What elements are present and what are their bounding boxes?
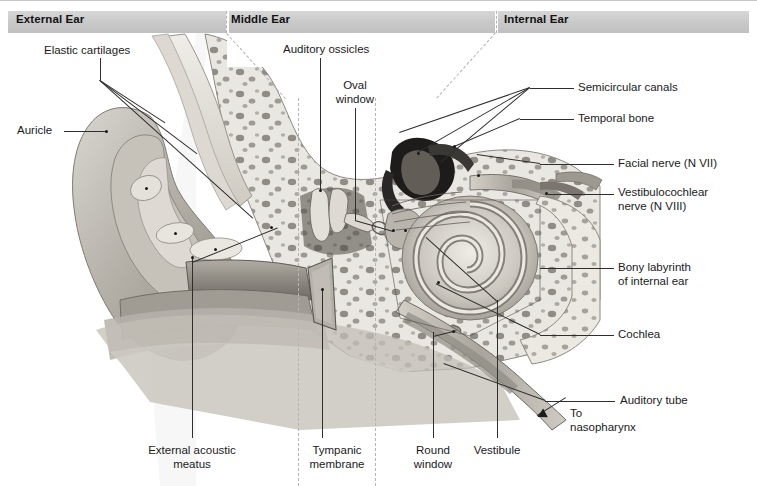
label-vestibule: Vestibule — [466, 444, 528, 458]
dot-vestibule — [404, 229, 407, 232]
label-temporal-bone: Temporal bone — [578, 112, 654, 126]
leader-oval-window-stem — [355, 108, 356, 220]
leader-external-acoustic-meatus — [192, 258, 193, 438]
dot-semicircular-canal-2 — [398, 163, 401, 166]
dot-cochlea — [437, 281, 440, 284]
label-vestibulocochlear-nerve: Vestibulocochlear nerve (N VIII) — [618, 186, 708, 213]
dot-temporal-bone — [453, 145, 456, 148]
label-to-nasopharynx: To nasopharynx — [570, 407, 636, 434]
dot-round-window — [452, 330, 455, 333]
dot-oval-window — [392, 229, 395, 232]
leader-semicircular-canals-base — [530, 88, 574, 89]
dot-auditory-ossicles — [319, 189, 322, 192]
label-external-acoustic-meatus: External acoustic meatus — [120, 444, 264, 471]
leader-vestibule-stem — [497, 300, 498, 438]
dot-tympanic-membrane — [321, 288, 324, 291]
dot-meatus-upper — [270, 226, 273, 229]
region-title-external: External Ear — [16, 13, 84, 25]
dot-semicircular-canal-1 — [417, 152, 420, 155]
dot-auricle — [105, 130, 108, 133]
leader-bony-labyrinth — [540, 268, 614, 269]
dot-vestibulocochlear-nerve — [545, 192, 548, 195]
label-round-window: Round window — [400, 444, 466, 471]
label-oval-window: Oval window — [305, 79, 405, 106]
dot-semicircular-canal-3 — [442, 163, 445, 166]
label-facial-nerve: Facial nerve (N VII) — [618, 157, 717, 171]
leader-elastic-cartilages-stem — [100, 58, 101, 80]
label-tympanic-membrane: Tympanic membrane — [292, 444, 382, 471]
label-auditory-ossicles: Auditory ossicles — [283, 43, 369, 57]
dot-external-acoustic-meatus — [191, 256, 194, 259]
ear-anatomy-figure: External Ear Middle Ear Internal Ear — [0, 0, 757, 486]
label-elastic-cartilages: Elastic cartilages — [44, 44, 130, 58]
dot-facial-nerve — [477, 174, 480, 177]
dot-elastic-cartilage-3 — [214, 248, 217, 251]
ear-cross-section-illustration — [0, 0, 757, 486]
label-auricle: Auricle — [17, 124, 52, 138]
leader-vestibulocochlear-nerve — [548, 194, 614, 195]
label-cochlea: Cochlea — [618, 328, 660, 342]
label-bony-labyrinth: Bony labyrinth of internal ear — [618, 261, 691, 288]
divider-external-middle-bottom — [298, 98, 299, 486]
dot-elastic-cartilage-2 — [174, 232, 177, 235]
divider-middle-internal-top — [496, 11, 497, 33]
leader-tympanic-membrane — [322, 290, 323, 438]
leader-round-window — [433, 332, 434, 438]
divider-middle-internal-bottom — [375, 98, 376, 486]
leader-facial-nerve-base — [540, 164, 614, 165]
dot-elastic-cartilage-1 — [145, 187, 148, 190]
label-auditory-tube: Auditory tube — [620, 394, 688, 408]
divider-external-middle-top — [226, 11, 227, 33]
region-title-internal: Internal Ear — [504, 13, 568, 25]
leader-auditory-ossicles — [320, 58, 321, 190]
leader-auricle — [64, 131, 106, 132]
region-title-middle: Middle Ear — [231, 13, 290, 25]
label-semicircular-canals: Semicircular canals — [578, 81, 678, 95]
leader-cochlea-base — [540, 335, 614, 336]
leader-temporal-bone-base — [520, 119, 574, 120]
